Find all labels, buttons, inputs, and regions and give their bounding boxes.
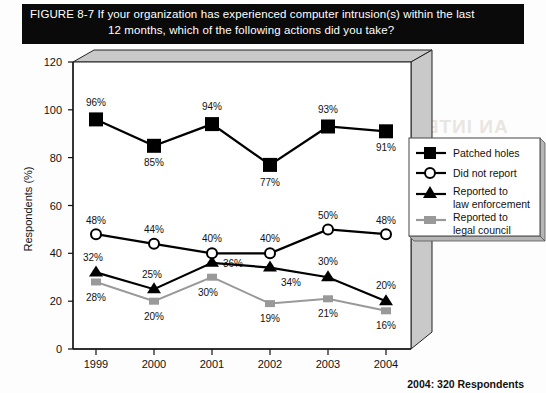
chart-plot: 120 100 80 60 40 20 0 Respondents (%) 1: [0, 44, 546, 393]
data-point-marker: [381, 307, 391, 314]
caption-text-line-1: If your organization has experienced com…: [98, 8, 475, 20]
data-label: 94%: [202, 101, 222, 112]
legend-label-second-line: legal council: [453, 224, 511, 236]
data-label: 77%: [260, 177, 280, 188]
chart-footnote: 2004: 320 Respondents: [407, 378, 524, 390]
y-tick-label-0: 0: [56, 343, 62, 355]
data-point-marker: [147, 139, 161, 153]
data-label: 36%: [223, 258, 243, 269]
data-label: 30%: [198, 287, 218, 298]
data-label: 34%: [281, 277, 301, 288]
data-label: 16%: [376, 320, 396, 331]
caption-line-1: FIGURE 8-7 If your organization has expe…: [30, 8, 474, 20]
legend-shadow: [540, 138, 545, 241]
x-tick-label-1999: 1999: [84, 358, 108, 370]
y-tick-label-120: 120: [44, 56, 62, 68]
x-tick-label-2002: 2002: [258, 358, 282, 370]
filled-square-gray-icon: [424, 216, 436, 224]
y-axis-ticks: 120 100 80 60 40 20 0: [44, 56, 73, 355]
data-point-marker: [265, 248, 275, 258]
data-point-marker: [263, 158, 277, 172]
data-label: 50%: [318, 210, 338, 221]
legend-label: Did not report: [453, 167, 517, 179]
data-label: 85%: [144, 157, 164, 168]
data-label: 48%: [376, 215, 396, 226]
chart-legend: Patched holes Did not report Reported to…: [409, 138, 545, 241]
legend-entry-patched-holes[interactable]: Patched holes: [416, 147, 520, 159]
plot-top-bevel: [73, 50, 432, 62]
y-tick-label-20: 20: [50, 295, 62, 307]
open-circle-icon: [425, 168, 435, 178]
data-point-marker: [323, 295, 333, 302]
data-label: 48%: [86, 215, 106, 226]
legend-entry-did-not-report[interactable]: Did not report: [416, 167, 517, 179]
x-tick-label-2001: 2001: [200, 358, 224, 370]
data-label: 32%: [83, 252, 103, 263]
data-label: 28%: [86, 292, 106, 303]
y-tick-label-40: 40: [50, 247, 62, 259]
figure-number: FIGURE 8-7: [30, 8, 94, 20]
data-point-marker: [265, 300, 275, 307]
data-label: 40%: [202, 233, 222, 244]
data-label: 19%: [260, 313, 280, 324]
data-point-marker: [207, 248, 217, 258]
data-point-marker: [149, 239, 159, 249]
legend-shadow-bottom: [409, 236, 545, 241]
data-label: 40%: [260, 233, 280, 244]
data-point-marker: [149, 298, 159, 305]
plot-3d-box: [73, 50, 432, 349]
legend-label-second-line: law enforcement: [453, 198, 530, 210]
data-label: 91%: [376, 142, 396, 153]
x-tick-label-2000: 2000: [142, 358, 166, 370]
figure-caption-banner: FIGURE 8-7 If your organization has expe…: [22, 4, 524, 44]
data-point-marker: [381, 229, 391, 239]
x-tick-label-2003: 2003: [316, 358, 340, 370]
data-point-marker: [91, 229, 101, 239]
data-point-marker: [207, 274, 217, 281]
y-tick-label-80: 80: [50, 152, 62, 164]
y-tick-label-60: 60: [50, 200, 62, 212]
data-label: 20%: [144, 311, 164, 322]
data-label: 25%: [142, 269, 162, 280]
filled-square-icon: [424, 147, 436, 159]
data-point-marker: [323, 224, 333, 234]
data-label: 93%: [318, 104, 338, 115]
y-tick-label-100: 100: [44, 104, 62, 116]
legend-label: Reported to: [453, 185, 508, 197]
data-label: 20%: [376, 280, 396, 291]
y-axis-title: Respondents (%): [22, 167, 34, 252]
data-label: 44%: [144, 224, 164, 235]
data-point-marker: [321, 120, 335, 134]
legend-label: Reported to: [453, 211, 508, 223]
legend-label: Patched holes: [453, 147, 520, 159]
data-point-marker: [379, 124, 393, 138]
x-axis-ticks: 1999 2000 2001 2002 2003 2004: [84, 349, 398, 370]
data-point-marker: [91, 279, 101, 286]
x-tick-label-2004: 2004: [374, 358, 398, 370]
chart-container: AN INTERNET SERVICES COMPANY the followi…: [0, 44, 546, 393]
figure-page: FIGURE 8-7 If your organization has expe…: [0, 0, 546, 393]
data-label: 21%: [318, 308, 338, 319]
data-label: 96%: [86, 97, 106, 108]
data-label: 30%: [318, 256, 338, 267]
data-point-marker: [89, 112, 103, 126]
caption-text-line-2: 12 months, which of the following action…: [108, 24, 394, 36]
data-point-marker: [205, 117, 219, 131]
